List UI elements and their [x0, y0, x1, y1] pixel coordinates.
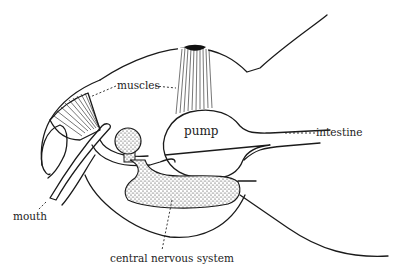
- central-nervous-system: [125, 160, 240, 208]
- label-mouth: mouth: [13, 210, 47, 222]
- label-muscles: muscles: [117, 79, 160, 91]
- mandible: [42, 125, 67, 178]
- mouth-leader: [38, 202, 46, 210]
- body-underside: [240, 195, 388, 256]
- front-muscles: [50, 93, 100, 140]
- intestine-lower: [244, 143, 320, 160]
- mouth-tube: [50, 124, 110, 200]
- label-intestine: intestine: [316, 126, 363, 138]
- top-muscles: [175, 45, 213, 115]
- label-cns: central nervous system: [110, 252, 234, 264]
- labium: [62, 155, 95, 205]
- head-outline: [100, 15, 327, 80]
- muscles-leader-left: [90, 86, 116, 97]
- head-diagram: muscles pump intestine mouth central ner…: [0, 0, 399, 276]
- label-pump: pump: [184, 124, 219, 138]
